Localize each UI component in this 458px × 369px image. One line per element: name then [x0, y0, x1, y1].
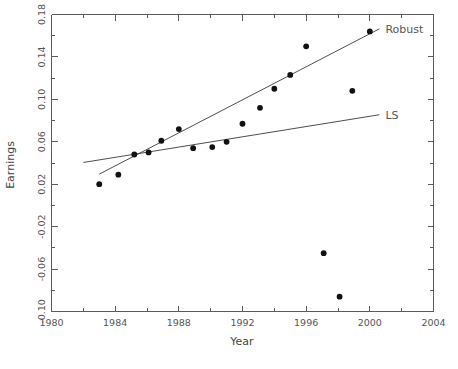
- y-tick-label: 0.02: [36, 174, 47, 195]
- y-tick-label: -0.02: [36, 214, 47, 239]
- data-point: [257, 105, 263, 111]
- series-label-ls: LS: [385, 109, 398, 122]
- data-point: [271, 86, 277, 92]
- chart-figure: 1980198419881992199620002004 -0.10-0.06-…: [0, 0, 458, 369]
- earnings-scatter-plot: 1980198419881992199620002004 -0.10-0.06-…: [0, 0, 458, 369]
- x-tick-label: 1996: [294, 317, 318, 328]
- data-point: [131, 152, 137, 158]
- x-tick-label: 1992: [230, 317, 254, 328]
- y-axis-tick-labels: -0.10-0.06-0.020.020.060.100.140.18: [36, 4, 47, 324]
- x-tick-label: 2004: [421, 317, 445, 328]
- data-point: [209, 144, 215, 150]
- x-axis-tick-labels: 1980198419881992199620002004: [39, 317, 445, 328]
- x-tick-label: 2000: [358, 317, 382, 328]
- y-axis-title: Earnings: [4, 141, 17, 189]
- data-point: [287, 72, 293, 78]
- y-tick-label: 0.14: [36, 46, 47, 67]
- fit-line-robust: [99, 29, 379, 174]
- data-point: [96, 181, 102, 187]
- axis-frame: [52, 15, 434, 312]
- x-axis-ticks: [52, 15, 434, 312]
- plot-axes: [52, 15, 434, 312]
- data-point: [176, 126, 182, 132]
- fit-line-ls: [83, 115, 379, 163]
- data-point: [224, 139, 230, 145]
- series-labels: RobustLS: [385, 23, 424, 122]
- data-point: [337, 294, 343, 300]
- x-axis-title: Year: [229, 335, 254, 348]
- data-point: [115, 172, 121, 178]
- data-points: [96, 29, 372, 300]
- data-point: [349, 88, 355, 94]
- y-tick-label: 0.18: [36, 4, 47, 25]
- series-label-robust: Robust: [385, 23, 424, 36]
- y-tick-label: -0.06: [36, 257, 47, 282]
- y-tick-label: -0.10: [36, 299, 47, 324]
- data-point: [240, 121, 246, 127]
- y-tick-label: 0.10: [36, 89, 47, 110]
- y-tick-label: 0.06: [36, 131, 47, 152]
- data-point: [158, 138, 164, 144]
- data-point: [321, 250, 327, 256]
- y-axis-ticks: [52, 15, 434, 312]
- data-point: [190, 145, 196, 151]
- data-point: [303, 43, 309, 49]
- data-point: [146, 149, 152, 155]
- x-tick-label: 1988: [167, 317, 191, 328]
- fit-lines: [83, 29, 379, 174]
- x-tick-label: 1984: [103, 317, 127, 328]
- data-point: [367, 29, 373, 35]
